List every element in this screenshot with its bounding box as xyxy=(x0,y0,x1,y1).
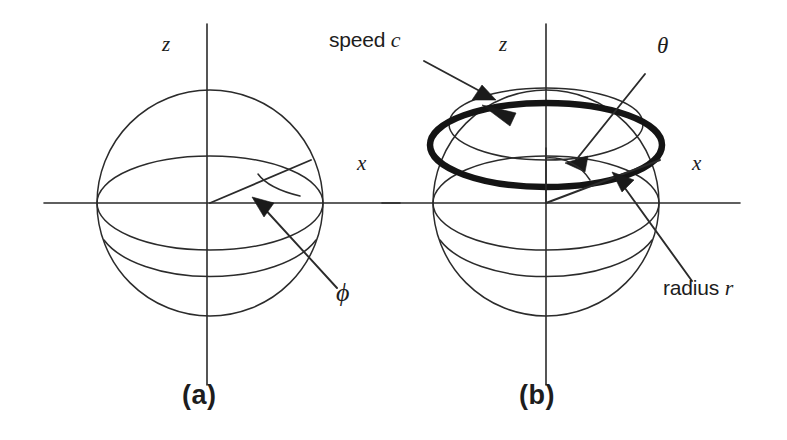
panel-b-radius-label-symbol: r xyxy=(725,275,733,300)
diagram-canvas xyxy=(0,0,787,440)
panel-b-radius-line xyxy=(546,160,660,203)
panel-a-phi-leader-line xyxy=(262,206,337,288)
panel-b-radius-label-text: radius xyxy=(663,276,725,299)
panel-b-theta-label: θ xyxy=(657,34,668,57)
panel-a-phi-arrowhead xyxy=(252,197,274,217)
panel-a-caption: (a) xyxy=(182,382,217,409)
panel-a-graphics xyxy=(44,24,400,385)
panel-a-phi-arc xyxy=(258,174,300,196)
panel-b-speed-arrowhead xyxy=(472,85,496,100)
panel-a-z-axis-label: z xyxy=(162,34,170,55)
panel-a-x-axis-label: x xyxy=(357,153,366,174)
panel-a-radial-line xyxy=(210,160,311,203)
panel-b-graphics xyxy=(382,24,740,385)
panel-a-phi-label: ϕ xyxy=(336,280,349,306)
panel-b-speed-label-symbol: c xyxy=(391,27,401,52)
panel-b-x-axis-label: x xyxy=(692,153,701,174)
panel-b-z-axis-label: z xyxy=(499,34,507,55)
panel-b-speed-label: speed c xyxy=(329,29,400,51)
panel-b-speed-label-text: speed xyxy=(329,28,391,51)
figure-root: z x ϕ (a) z x θ speed c radius r (b) xyxy=(0,0,787,440)
panel-b-radius-label: radius r xyxy=(663,277,733,299)
panel-a-lower-latitude-arc xyxy=(104,240,316,277)
panel-b-caption: (b) xyxy=(519,382,555,409)
